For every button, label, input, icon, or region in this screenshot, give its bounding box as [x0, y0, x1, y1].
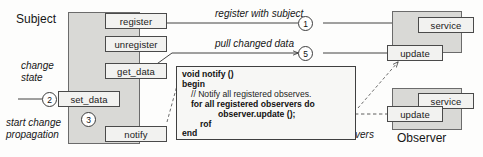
code-line-5: rof	[182, 120, 355, 130]
label-start-change-line1: start change	[6, 117, 61, 128]
step-marker-2[interactable]: 2	[42, 92, 57, 107]
subject-title: Subject	[16, 14, 56, 25]
method-box-get-data[interactable]: get_data	[105, 63, 167, 79]
method-box-update-2[interactable]: update	[387, 106, 443, 122]
code-line-6: end	[182, 129, 355, 139]
observer-title: Observer	[397, 133, 446, 144]
step-marker-1[interactable]: 1	[298, 16, 313, 31]
method-box-notify[interactable]: notify	[105, 126, 167, 142]
label-register-with-subject: register with subject	[215, 8, 303, 19]
label-start-change-line2: propagation	[6, 129, 59, 140]
label-pull-changed-data: pull changed data	[215, 38, 294, 49]
method-box-service-1[interactable]: service	[418, 17, 474, 33]
method-box-set-data[interactable]: set_data	[58, 91, 120, 107]
method-box-update-1[interactable]: update	[387, 45, 443, 61]
code-line-0: void notify ()	[182, 70, 355, 80]
label-change-state-line2: state	[21, 72, 43, 83]
notify-code-block: void notify () begin // Notify all regis…	[176, 66, 356, 140]
observer-pattern-diagram: Subject register unregister get_data set…	[0, 0, 483, 157]
step-marker-5[interactable]: 5	[298, 46, 313, 61]
method-box-unregister[interactable]: unregister	[105, 36, 167, 52]
method-box-register[interactable]: register	[105, 13, 167, 29]
step-marker-3[interactable]: 3	[81, 112, 96, 127]
label-change-state-line1: change	[21, 60, 54, 71]
